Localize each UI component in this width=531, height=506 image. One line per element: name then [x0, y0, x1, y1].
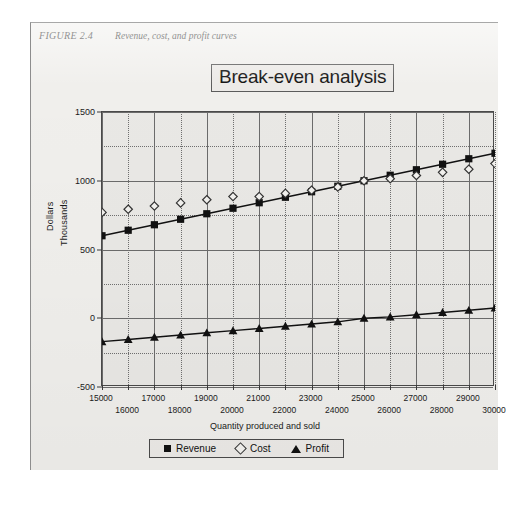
legend-item-profit[interactable]: Profit: [291, 443, 329, 454]
data-point-square: [439, 161, 446, 168]
series-cost: [102, 159, 495, 216]
x-tick-label: 22000: [273, 405, 297, 415]
y-tick-label: -500: [77, 382, 95, 392]
x-tick-label: 28000: [430, 405, 454, 415]
open-diamond-icon: [234, 442, 247, 455]
x-tick-mark: [364, 385, 365, 390]
x-tick-mark: [207, 385, 208, 390]
data-point-square: [203, 210, 210, 217]
x-tick-label: 20000: [220, 405, 244, 415]
x-tick-label: 23000: [299, 393, 323, 403]
y-tick-mark: [97, 249, 102, 250]
x-tick-label: 17000: [142, 393, 166, 403]
y-axis-label-units: Thousands: [59, 200, 69, 246]
y-tick-mark: [97, 180, 102, 181]
gridline-horizontal: [102, 387, 493, 388]
x-tick-mark: [338, 385, 339, 390]
x-tick-mark: [416, 385, 417, 390]
x-tick-label: 18000: [168, 405, 192, 415]
y-tick-label: 0: [90, 313, 95, 323]
x-tick-label: 29000: [456, 393, 480, 403]
chart-title-box: Break-even analysis: [211, 64, 394, 92]
x-axis-label: Quantity produced and sold: [31, 421, 499, 431]
x-tick-mark: [233, 385, 234, 390]
data-point-diamond: [176, 199, 184, 207]
x-tick-mark: [102, 385, 103, 390]
legend-item-revenue[interactable]: Revenue: [164, 443, 216, 454]
data-point-diamond: [203, 196, 211, 204]
x-tick-mark: [259, 385, 260, 390]
x-tick-mark: [495, 385, 496, 390]
x-tick-label: 15000: [89, 393, 113, 403]
data-point-square: [229, 205, 236, 212]
x-tick-mark: [285, 385, 286, 390]
data-point-square: [491, 150, 495, 157]
legend-label: Revenue: [176, 443, 216, 454]
y-tick-label: 1500: [75, 107, 95, 117]
x-tick-label: 25000: [351, 393, 375, 403]
y-tick-label: 1000: [75, 176, 95, 186]
x-tick-mark: [443, 385, 444, 390]
data-point-diamond: [102, 208, 106, 216]
chart-title: Break-even analysis: [219, 66, 386, 88]
y-tick-mark: [97, 318, 102, 319]
series-revenue: [102, 150, 495, 240]
x-tick-label: 30000: [482, 405, 506, 415]
legend-label: Cost: [250, 443, 271, 454]
data-point-square: [125, 227, 132, 234]
figure-caption-text: Revenue, cost, and profit curves: [115, 31, 237, 41]
data-point-diamond: [491, 159, 495, 167]
x-tick-label: 21000: [246, 393, 270, 403]
y-axis-label: Dollars: [45, 202, 55, 231]
x-tick-mark: [390, 385, 391, 390]
filled-triangle-icon: [291, 445, 301, 453]
y-tick-mark: [97, 112, 102, 113]
gridline-vertical: [495, 112, 496, 385]
x-tick-mark: [128, 385, 129, 390]
x-tick-label: 24000: [325, 405, 349, 415]
x-tick-mark: [312, 385, 313, 390]
data-point-square: [151, 221, 158, 228]
plot-area: -500050010001500: [101, 111, 494, 386]
x-tick-label: 16000: [115, 405, 139, 415]
x-tick-label: 19000: [194, 393, 218, 403]
series-line: [102, 153, 495, 236]
x-tick-label: 26000: [377, 405, 401, 415]
series-profit: [102, 304, 495, 346]
y-tick-label: 500: [80, 245, 95, 255]
legend-item-cost[interactable]: Cost: [236, 443, 271, 454]
x-tick-label: 27000: [404, 393, 428, 403]
scanned-page: FIGURE 2.4Revenue, cost, and profit curv…: [30, 22, 498, 470]
legend-label: Profit: [306, 443, 329, 454]
filled-square-icon: [164, 445, 171, 452]
x-tick-mark: [181, 385, 182, 390]
series-line: [102, 308, 495, 342]
x-tick-mark: [469, 385, 470, 390]
data-point-square: [177, 216, 184, 223]
data-point-diamond: [124, 205, 132, 213]
data-point-diamond: [465, 165, 473, 173]
figure-number: FIGURE 2.4: [39, 30, 93, 41]
data-point-square: [102, 232, 106, 239]
x-tick-mark: [154, 385, 155, 390]
data-point-square: [465, 155, 472, 162]
data-point-diamond: [229, 192, 237, 200]
data-point-diamond: [438, 168, 446, 176]
chart: Break-even analysis -500050010001500 Dol…: [31, 41, 499, 471]
data-point-diamond: [150, 202, 158, 210]
chart-legend: RevenueCostProfit: [149, 439, 344, 458]
series-layer: [102, 112, 495, 387]
